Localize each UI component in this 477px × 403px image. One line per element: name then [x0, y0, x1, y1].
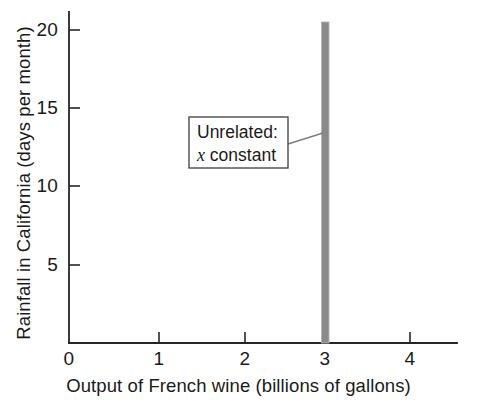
- callout-variable-rest: constant: [205, 145, 276, 165]
- chart-figure: 20 15 10 5 0 1 2 3 4 Output of French wi…: [0, 0, 477, 403]
- x-tick-label-2: 2: [240, 348, 251, 370]
- callout-annotation: Unrelated: x constant: [197, 121, 285, 167]
- callout-variable: x: [197, 145, 205, 165]
- x-tick-label-0: 0: [64, 348, 75, 370]
- x-tick-label-4: 4: [405, 348, 416, 370]
- callout-line-1: Unrelated:: [197, 121, 285, 144]
- callout-line-2: x constant: [197, 144, 285, 167]
- x-tick-label-3: 3: [320, 348, 331, 370]
- x-tick-label-1: 1: [154, 348, 165, 370]
- x-axis-title: Output of French wine (billions of gallo…: [0, 375, 477, 397]
- callout-leader-line: [288, 133, 323, 144]
- chart-canvas: [0, 0, 477, 403]
- y-axis-title: Rainfall in California (days per month): [13, 13, 35, 353]
- data-bar: [322, 22, 330, 343]
